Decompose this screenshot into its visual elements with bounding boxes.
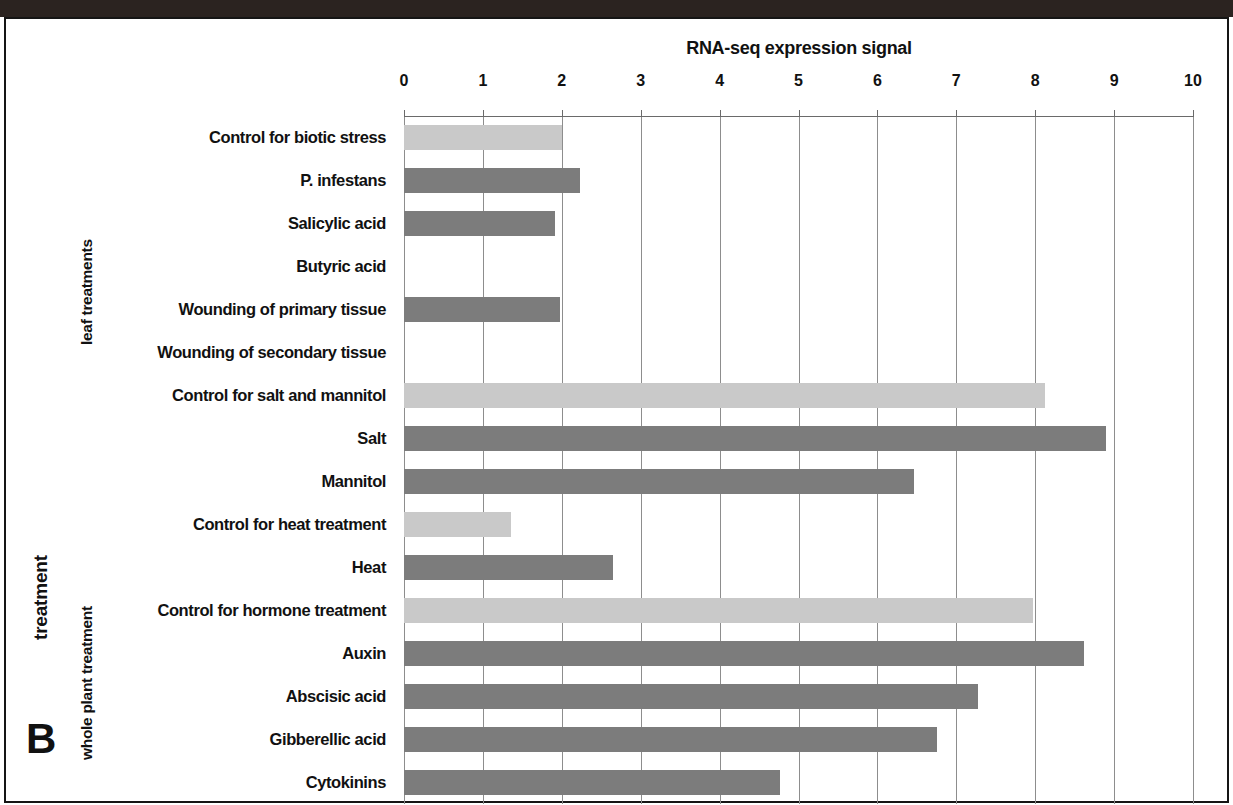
bar [404,211,555,236]
x-axis-tick-label: 0 [384,72,424,90]
y-axis-category-labels: Control for biotic stressP. infestansSal… [120,116,395,804]
y-axis-category-label: Heat [120,546,395,589]
bar [404,641,1084,666]
bar [404,168,580,193]
plot-area [404,116,1193,804]
bar-row [404,288,1193,331]
y-axis-category-label: Wounding of primary tissue [120,288,395,331]
y-axis-category-label: Abscisic acid [120,675,395,718]
y-axis-category-label: Cytokinins [120,761,395,804]
group-label-whole-plant-treatment: whole plant treatment [78,606,96,760]
x-axis-tickmark [1114,110,1115,117]
bar-row [404,675,1193,718]
bar-row [404,460,1193,503]
x-axis-tickmark [720,110,721,117]
x-axis-tickmark [956,110,957,117]
bar-row [404,632,1193,675]
bar-row [404,503,1193,546]
bar [404,727,937,752]
bar [404,598,1033,623]
x-axis-tick-label: 2 [542,72,582,90]
y-axis-category-label: P. infestans [120,159,395,202]
bar-row [404,761,1193,804]
y-axis-category-label: Control for hormone treatment [120,589,395,632]
group-label-leaf-treatments: leaf treatments [78,239,96,345]
y-axis-category-label: Mannitol [120,460,395,503]
y-axis-category-label: Salicylic acid [120,202,395,245]
x-axis-tickmark [1193,110,1194,117]
bar [404,469,914,494]
bar [404,512,511,537]
x-axis-tickmark [877,110,878,117]
x-axis-tick-label: 3 [621,72,661,90]
x-axis-tickmark [799,110,800,117]
x-axis-tick-label: 7 [936,72,976,90]
y-axis-category-label: Salt [120,417,395,460]
x-axis-tickmark [1035,110,1036,117]
bar-row [404,589,1193,632]
x-axis-tick-label: 1 [463,72,503,90]
bar-row [404,417,1193,460]
x-axis-tickmark [641,110,642,117]
y-axis-category-label: Gibberellic acid [120,718,395,761]
x-axis-tick-label: 4 [700,72,740,90]
y-axis-category-label: Control for salt and mannitol [120,374,395,417]
x-axis-tickmark [483,110,484,117]
x-axis-tick-label: 6 [857,72,897,90]
x-axis-tickmark [404,110,405,117]
gridline [1193,116,1194,804]
x-axis-tick-labels: 012345678910 [0,72,1233,98]
bar-row [404,245,1193,288]
y-axis-category-label: Control for biotic stress [120,116,395,159]
bar-row [404,546,1193,589]
bar-row [404,331,1193,374]
y-axis-category-label: Auxin [120,632,395,675]
bar [404,383,1045,408]
bar-row [404,202,1193,245]
panel-letter: B [26,718,56,760]
bar [404,125,562,150]
chart-title: RNA-seq expression signal [404,38,1194,59]
bar-row [404,116,1193,159]
bar [404,297,560,322]
y-axis-title: treatment [30,555,52,640]
x-axis-tick-label: 8 [1015,72,1055,90]
x-axis-tick-label: 9 [1094,72,1134,90]
bar [404,684,978,709]
x-axis-tick-label: 5 [779,72,819,90]
x-axis-tick-label: 10 [1173,72,1213,90]
bar [404,555,613,580]
y-axis-category-label: Wounding of secondary tissue [120,331,395,374]
bar [404,426,1106,451]
y-axis-category-label: Butyric acid [120,245,395,288]
bar-row [404,159,1193,202]
bar-row [404,374,1193,417]
scan-artifact-band [0,0,1233,17]
bar [404,770,780,795]
x-axis-tickmark [562,110,563,117]
y-axis-category-label: Control for heat treatment [120,503,395,546]
bar-row [404,718,1193,761]
